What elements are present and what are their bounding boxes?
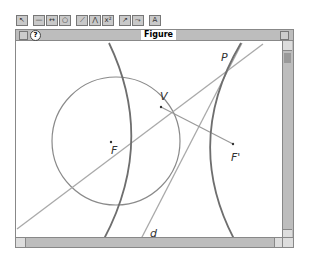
measure-tool-button[interactable]: x² <box>102 15 114 26</box>
hyperbola-right-branch[interactable] <box>210 43 241 239</box>
construct-tool-button[interactable]: ⟋ <box>76 15 88 26</box>
segment-tool-button[interactable]: — <box>33 15 45 26</box>
label-v: V <box>160 90 169 103</box>
hyperbola-left-branch[interactable] <box>104 43 131 239</box>
point-f[interactable] <box>110 141 112 143</box>
horizontal-scrollbar[interactable] <box>16 237 284 247</box>
text-tool-button[interactable]: A <box>149 15 161 26</box>
label-p: P <box>221 51 228 64</box>
point-v[interactable] <box>160 106 162 108</box>
zoom-box[interactable] <box>280 31 289 40</box>
display-tool-button[interactable]: ⤳ <box>132 15 144 26</box>
locus-tool-button[interactable]: ↗ <box>119 15 131 26</box>
scroll-left-arrow[interactable] <box>16 238 26 247</box>
circle-tool-button[interactable]: ○ <box>59 15 71 26</box>
resize-grow-box[interactable] <box>282 237 293 247</box>
figure-window: ? Figure P V F F' d <box>15 29 294 248</box>
title-bar[interactable]: ? Figure <box>16 30 293 41</box>
pointer-tool-button[interactable]: ↖ <box>16 15 28 26</box>
transform-tool-button[interactable]: ⋀ <box>89 15 101 26</box>
scroll-up-arrow[interactable] <box>283 41 292 51</box>
figure-canvas[interactable]: P V F F' d <box>16 41 284 239</box>
label-f: F <box>111 144 118 157</box>
label-f-prime: F' <box>231 151 240 164</box>
close-box[interactable] <box>19 31 28 40</box>
point-f-prime[interactable] <box>232 143 234 145</box>
help-icon[interactable]: ? <box>30 30 41 41</box>
vertical-scrollbar[interactable] <box>282 41 293 239</box>
window-title: Figure <box>141 30 176 40</box>
scroll-thumb[interactable] <box>284 53 291 63</box>
toolbar: ↖ — ↔ ○ ⟋ ⋀ x² ↗ ⤳ A <box>16 14 162 27</box>
line-tool-button[interactable]: ↔ <box>46 15 58 26</box>
segment-vf-prime[interactable] <box>161 107 233 144</box>
